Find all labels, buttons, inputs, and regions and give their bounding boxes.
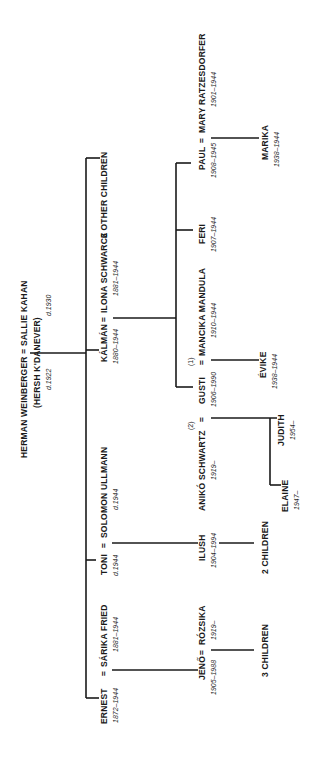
marriage-symbol: =	[100, 317, 109, 322]
marriage-symbol: =	[100, 543, 109, 548]
paul-dates: 1908–1945	[210, 143, 217, 178]
gusti-dates: 1906–1990	[210, 372, 217, 407]
spouse1-marker: (1)	[187, 357, 194, 366]
marriage-symbol: =	[198, 417, 207, 422]
kalman-name: KÁLMÁN	[100, 324, 109, 362]
marriage-symbol: =	[198, 360, 207, 365]
elaine-dates: 1947–	[293, 491, 300, 510]
evike-dates: 1938–1944	[271, 354, 278, 389]
marika-dates: 1938–1944	[273, 132, 280, 167]
judith-name: JUDITH	[277, 414, 286, 446]
sarika-dates: 1881–1944	[112, 617, 119, 652]
solomon-name: SOLOMON ULLMANN	[100, 447, 109, 538]
sarika-name: SÁRIKA FRIED	[100, 604, 109, 667]
ernest-name: ERNEST	[100, 688, 109, 724]
marriage-symbol: =	[198, 138, 207, 143]
gusti-name: GUSTI	[198, 377, 207, 404]
herman-alias: (HERSH K'DANEVER)	[33, 317, 42, 408]
jeno-dates: 1905–1988	[210, 660, 217, 695]
toni-dates: d.1944	[112, 555, 119, 576]
herman-dates: d.1922	[45, 369, 52, 390]
paul-name: PAUL	[198, 147, 207, 170]
marriage-symbol: =	[100, 671, 109, 676]
ilona-dates: 1881–1944	[112, 261, 119, 296]
aniko-dates: 1919–	[210, 461, 217, 480]
marriage-symbol: =	[198, 650, 207, 655]
solomon-dates: d.1944	[112, 489, 119, 510]
rozsika-dates: 1919–	[210, 621, 217, 640]
other-children: 6 OTHER CHILDREN	[100, 152, 109, 238]
ilush-dates: 1904–1994	[210, 533, 217, 568]
marika-name: MARIKA	[261, 125, 270, 160]
toni-name: TONI	[100, 554, 109, 575]
mancika-name: MANCIKA MANDULA	[198, 268, 207, 356]
elaine-name: ELAINE	[281, 480, 290, 512]
evike-name: ÉVIKE	[259, 351, 268, 378]
mary-dates: 1901–1944	[210, 72, 217, 107]
feri-dates: 1907–1944	[210, 217, 217, 252]
ilona-name: ILONA SCHWARCZ	[100, 233, 109, 313]
rozsika-name: RÓZSIKA	[198, 605, 207, 645]
jeno-name: JENŐ	[198, 656, 207, 680]
judith-dates: 1954–	[289, 421, 296, 440]
mary-name: MARY RATZESDORFER	[198, 33, 207, 133]
ilush-children: 2 CHILDREN	[261, 521, 270, 574]
ernest-dates: 1872–1944	[112, 688, 119, 723]
herman-weinberger-couple: HERMAN WEINBERGER = SALLIE KAHAN	[20, 280, 29, 458]
kalman-dates: 1880–1944	[112, 329, 119, 364]
mancika-dates: 1910–1944	[210, 303, 217, 338]
jeno-children: 3 CHILDREN	[261, 624, 270, 677]
sallie-dates: d.1930	[45, 295, 52, 316]
spouse2-marker: (2)	[187, 421, 194, 430]
feri-name: FERI	[198, 224, 207, 244]
ilush-name: ILUSH	[198, 535, 207, 562]
aniko-name: ANIKÓ SCHWARTZ	[198, 430, 207, 511]
